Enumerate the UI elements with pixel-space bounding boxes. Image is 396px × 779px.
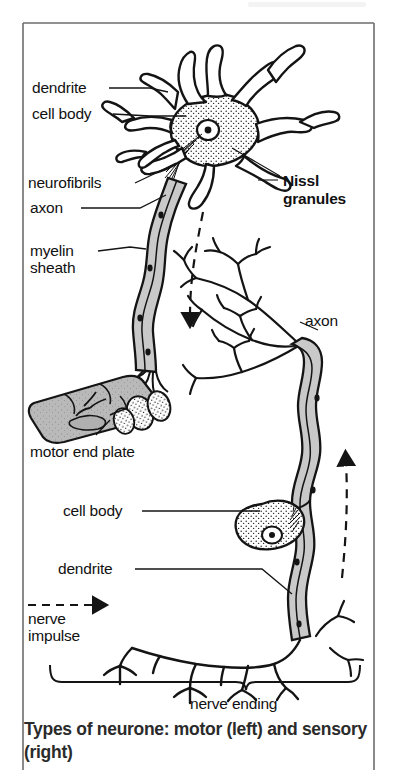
label-nerve-ending: nerve ending [190, 695, 277, 712]
label-dendrite-top: dendrite [32, 79, 86, 96]
label-myelin-sheath-line1: myelin [30, 242, 74, 259]
curly-brace-icon [50, 665, 360, 690]
leader-axon-left [81, 195, 166, 208]
label-nissl-line2: granules [283, 190, 346, 207]
leader-dendrite-bottom [135, 569, 292, 594]
figure-caption: Types of neurone: motor (left) and senso… [24, 718, 368, 764]
sensory-axon [288, 338, 322, 640]
label-axon-left: axon [30, 199, 63, 216]
label-dendrite-bottom: dendrite [58, 560, 112, 577]
label-nissl-line1: Nissl [283, 172, 319, 189]
label-axon-right: axon [305, 312, 338, 329]
sensory-nerve-endings [104, 640, 300, 703]
sensory-ending-right-branch [316, 601, 363, 676]
label-neurofibrils: neurofibrils [28, 174, 101, 191]
figure-page: dendrite cell body neurofibrils axon mye… [0, 0, 396, 779]
nucleus-icon [197, 120, 219, 140]
label-myelin-sheath-line2: sheath [30, 259, 75, 276]
label-motor-end-plate: motor end plate [30, 443, 135, 460]
dashed-arrow-up-icon [342, 462, 347, 578]
label-nerve-impulse-line1: nerve [28, 610, 66, 627]
nucleus-icon [262, 527, 282, 544]
leader-myelin [98, 247, 146, 251]
label-cell-body-bottom: cell body [63, 502, 122, 519]
sensory-dendrite-tree [174, 238, 300, 394]
label-nerve-impulse-line2: impulse [28, 627, 80, 644]
label-cell-body-top: cell body [32, 105, 91, 122]
